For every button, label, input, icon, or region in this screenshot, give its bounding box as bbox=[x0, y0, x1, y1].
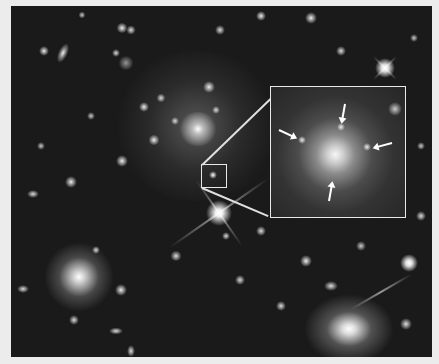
galaxy bbox=[417, 142, 425, 150]
galaxy bbox=[27, 190, 39, 198]
arrow-icon bbox=[374, 142, 392, 149]
galaxy bbox=[149, 135, 160, 146]
galaxy bbox=[116, 155, 128, 167]
galaxy bbox=[37, 142, 45, 150]
galaxy bbox=[171, 117, 179, 125]
galaxy-cluster-image bbox=[11, 6, 432, 357]
galaxy bbox=[416, 211, 426, 221]
central-galaxy bbox=[178, 112, 218, 146]
galaxy bbox=[356, 241, 366, 251]
galaxy bbox=[170, 251, 182, 261]
galaxy bbox=[300, 255, 312, 267]
target-galaxy bbox=[209, 171, 217, 179]
bright-star bbox=[400, 254, 418, 272]
galaxy bbox=[400, 318, 412, 330]
galaxy bbox=[92, 246, 100, 254]
lensed-image bbox=[363, 143, 371, 151]
galaxy bbox=[157, 94, 166, 103]
galaxy bbox=[235, 275, 245, 285]
galaxy bbox=[222, 232, 230, 240]
galaxy bbox=[109, 328, 123, 335]
galaxy bbox=[256, 226, 266, 236]
galaxy bbox=[55, 42, 72, 64]
galaxy bbox=[39, 46, 49, 56]
galaxy bbox=[336, 46, 346, 56]
background-galaxy bbox=[388, 102, 402, 116]
galaxy bbox=[87, 112, 95, 120]
galaxy bbox=[256, 11, 266, 21]
galaxy bbox=[276, 301, 286, 311]
galaxy bbox=[126, 26, 136, 35]
galaxy bbox=[305, 12, 317, 24]
galaxy bbox=[410, 34, 418, 42]
galaxy bbox=[112, 49, 120, 57]
galaxy bbox=[115, 284, 127, 296]
galaxy bbox=[79, 11, 85, 19]
inset-panel bbox=[270, 86, 406, 218]
arrow-icon bbox=[341, 104, 346, 122]
galaxy bbox=[118, 56, 134, 70]
lensed-image bbox=[298, 136, 306, 144]
galaxy bbox=[65, 176, 77, 188]
bright-galaxy-lower-left bbox=[44, 242, 114, 312]
galaxy bbox=[203, 81, 215, 93]
galaxy bbox=[215, 25, 225, 35]
bright-galaxy-lower-right bbox=[304, 294, 394, 357]
galaxy bbox=[212, 106, 220, 114]
arrow-icon bbox=[279, 129, 296, 138]
galaxy bbox=[17, 285, 29, 293]
galaxy bbox=[139, 102, 149, 112]
galaxy bbox=[69, 315, 79, 325]
galaxy bbox=[127, 345, 135, 357]
galaxy bbox=[324, 281, 338, 291]
figure-description: Deep-field image of a galaxy cluster wit… bbox=[0, 0, 1, 1]
arrow-icon bbox=[328, 183, 333, 201]
